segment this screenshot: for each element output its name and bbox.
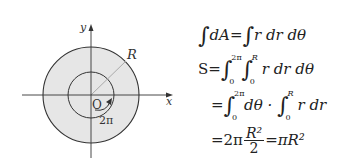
lower-limit: 0	[250, 78, 255, 86]
integral-sign: ∫	[198, 23, 209, 48]
equals: =	[230, 26, 243, 44]
lhs: S	[198, 60, 208, 78]
equation-line-2: S=∫2π0∫R0r dr dθ	[198, 56, 314, 80]
integrand: r dr dθ	[262, 60, 314, 78]
polar-area-diagram: y x R O 2π	[0, 0, 180, 166]
radius-label: R	[126, 47, 137, 62]
rhs: r dr dθ	[254, 26, 306, 44]
lhs: dA	[209, 26, 229, 44]
upper-limit: 2π	[234, 90, 244, 98]
upper-limit: R	[287, 90, 293, 98]
factor-1: dθ ·	[244, 96, 272, 114]
integral-sign: ∫	[242, 23, 253, 48]
denominator: 2	[244, 141, 264, 155]
equals: =	[208, 60, 221, 78]
equation-line-1: ∫dA=∫r dr dθ	[198, 22, 306, 44]
equals: =	[211, 131, 224, 149]
lower-limit: 0	[285, 114, 290, 122]
numerator: R²	[244, 126, 264, 141]
equals: =	[265, 131, 278, 149]
y-axis-label: y	[79, 21, 87, 34]
angle-label: 2π	[99, 114, 113, 127]
coefficient: 2π	[224, 131, 243, 149]
equation-line-4: =2πR²2=πR²	[211, 126, 305, 155]
upper-limit: R	[252, 54, 258, 62]
fraction: R²2	[244, 126, 264, 155]
origin-label: O	[92, 98, 102, 112]
equals: =	[211, 96, 224, 114]
lower-limit: 0	[232, 114, 237, 122]
factor-2: r dr	[297, 96, 326, 114]
result: πR²	[278, 131, 305, 149]
equation-line-3: =∫2π0dθ · ∫R0r dr	[211, 92, 326, 116]
y-axis-arrow-icon	[89, 24, 94, 31]
lower-limit: 0	[229, 78, 234, 86]
x-axis-label: x	[166, 95, 173, 108]
